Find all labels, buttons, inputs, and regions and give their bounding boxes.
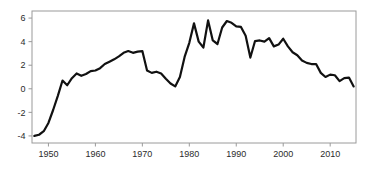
x-tick-label: 1980 — [179, 149, 199, 159]
y-tick-label: -2 — [17, 108, 25, 118]
x-tick-label: 1990 — [226, 149, 246, 159]
x-tick-label: 2000 — [273, 149, 293, 159]
line-chart: -4-20246 1950196019701980199020002010 — [0, 0, 366, 172]
y-axis-ticks: -4-20246 — [17, 13, 32, 141]
x-tick-label: 1960 — [85, 149, 105, 159]
x-axis-ticks: 1950196019701980199020002010 — [38, 143, 340, 159]
chart-container: -4-20246 1950196019701980199020002010 — [0, 0, 366, 172]
y-tick-label: -4 — [17, 131, 25, 141]
x-tick-label: 1970 — [132, 149, 152, 159]
x-tick-label: 1950 — [38, 149, 58, 159]
plot-frame — [32, 11, 356, 143]
y-tick-label: 6 — [20, 13, 25, 23]
y-tick-label: 4 — [20, 37, 25, 47]
plot-area — [32, 11, 356, 143]
y-tick-label: 0 — [20, 84, 25, 94]
x-tick-label: 2010 — [320, 149, 340, 159]
y-tick-label: 2 — [20, 60, 25, 70]
